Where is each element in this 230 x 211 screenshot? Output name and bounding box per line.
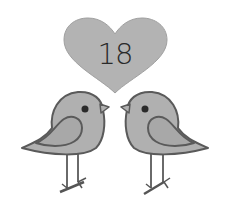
illustration-canvas [0, 0, 230, 211]
left-bird-icon [22, 92, 109, 192]
right-bird-icon [121, 92, 208, 194]
heart-number-label: 18 [0, 37, 230, 71]
lovebirds-illustration: 18 [0, 0, 230, 211]
